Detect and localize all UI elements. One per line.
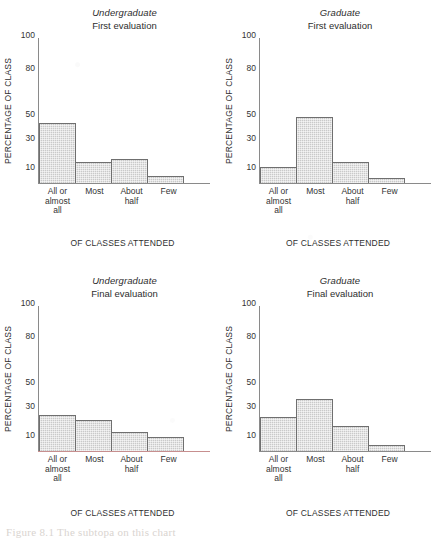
y-tick-label: 80 [247, 331, 259, 341]
bar [111, 432, 148, 451]
x-axis-category-label: Abouthalf [113, 455, 150, 484]
x-axis-line [38, 451, 210, 452]
plot-area: 10080503010All oralmostallMostAbouthalfF… [259, 306, 409, 452]
x-axis-category-line: Few [150, 187, 187, 197]
bar-series [260, 37, 405, 183]
chart-group-title: Graduate [249, 6, 431, 19]
bar [332, 162, 369, 183]
y-axis-label: PERCENTAGE OF CLASS [2, 306, 15, 452]
bar-series [260, 305, 405, 451]
x-axis-category-line: Most [297, 187, 334, 197]
x-axis-category-labels: All oralmostallMostAbouthalfFew [260, 187, 408, 216]
y-tick-label: 30 [26, 401, 38, 411]
y-tick-label: 50 [247, 109, 259, 119]
x-axis-category-label: Abouthalf [334, 455, 371, 484]
x-axis-category-line: Few [371, 187, 408, 197]
chart-panel-0: UndergraduateFirst evaluationPERCENTAGE … [0, 0, 215, 268]
x-axis-category-label: Most [76, 455, 113, 484]
y-tick-label: 50 [26, 377, 38, 387]
y-tick-label: 80 [26, 63, 38, 73]
y-tick-label: 10 [247, 430, 259, 440]
chart-panel-1: GraduateFirst evaluationPERCENTAGE OF CL… [215, 0, 431, 268]
y-tick-label: 100 [21, 298, 38, 308]
x-axis-title: OF CLASSES ATTENDED [34, 238, 211, 248]
x-axis-category-line: half [113, 465, 150, 475]
y-tick-label: 10 [26, 430, 38, 440]
bar-series [39, 37, 184, 183]
bar [75, 162, 112, 183]
figure-panel-grid: UndergraduateFirst evaluationPERCENTAGE … [0, 0, 431, 539]
x-axis-category-line: all [260, 206, 297, 216]
y-tick-label: 10 [247, 162, 259, 172]
bar [111, 159, 148, 183]
x-axis-category-line: half [113, 197, 150, 207]
x-axis-category-line: Most [76, 187, 113, 197]
bar [39, 415, 76, 452]
plot-area: 10080503010All oralmostallMostAbouthalfF… [38, 38, 188, 184]
bar [296, 399, 333, 451]
y-tick-label: 30 [247, 133, 259, 143]
x-axis-category-label: Most [297, 455, 334, 484]
x-axis-category-label: All oralmostall [260, 455, 297, 484]
y-tick-label: 100 [21, 30, 38, 40]
y-tick-label: 100 [242, 30, 259, 40]
x-axis-category-line: half [334, 465, 371, 475]
x-axis-category-label: Few [371, 455, 408, 484]
chart-group-title: Undergraduate [34, 6, 215, 19]
y-tick-label: 80 [26, 331, 38, 341]
x-axis-category-label: Few [150, 187, 187, 216]
bar [39, 123, 76, 183]
chart-evaluation-title: Final evaluation [34, 287, 215, 301]
y-tick-label: 80 [247, 63, 259, 73]
bar [260, 167, 297, 183]
x-axis-category-label: Abouthalf [334, 187, 371, 216]
x-axis-category-line: Most [297, 455, 334, 465]
y-tick-label: 50 [247, 377, 259, 387]
bar-series [39, 305, 184, 451]
x-axis-category-label: Most [76, 187, 113, 216]
x-axis-category-line: all [39, 206, 76, 216]
chart-group-title: Undergraduate [34, 274, 215, 287]
bar [368, 178, 405, 183]
x-axis-category-label: Few [371, 187, 408, 216]
y-tick-label: 30 [26, 133, 38, 143]
chart-group-title: Graduate [249, 274, 431, 287]
figure-caption: Figure 8.1 The subtopa on this chart [6, 526, 176, 538]
x-axis-category-line: all [39, 474, 76, 484]
bar [147, 176, 184, 183]
y-axis-label: PERCENTAGE OF CLASS [2, 38, 15, 184]
y-tick-label: 10 [26, 162, 38, 172]
bar [296, 117, 333, 183]
x-axis-category-line: Few [371, 455, 408, 465]
y-axis-label-text: PERCENTAGE OF CLASS [4, 326, 14, 432]
x-axis-line [259, 183, 431, 184]
x-axis-category-labels: All oralmostallMostAbouthalfFew [39, 455, 187, 484]
y-tick-label: 50 [26, 109, 38, 119]
bar [75, 420, 112, 451]
chart-panel-3: GraduateFinal evaluationPERCENTAGE OF CL… [215, 268, 431, 539]
x-axis-category-label: All oralmostall [39, 187, 76, 216]
chart-evaluation-title: First evaluation [249, 19, 431, 33]
x-axis-category-label: All oralmostall [260, 187, 297, 216]
x-axis-line [38, 183, 210, 184]
x-axis-category-label: Most [297, 187, 334, 216]
x-axis-category-line: half [334, 197, 371, 207]
y-axis-label: PERCENTAGE OF CLASS [223, 38, 236, 184]
y-axis-label-text: PERCENTAGE OF CLASS [225, 326, 235, 432]
y-tick-label: 100 [242, 298, 259, 308]
x-axis-category-label: Abouthalf [113, 187, 150, 216]
y-axis-label-text: PERCENTAGE OF CLASS [4, 58, 14, 164]
x-axis-category-label: Few [150, 455, 187, 484]
bar [368, 445, 405, 451]
y-tick-label: 30 [247, 401, 259, 411]
x-axis-category-line: Most [76, 455, 113, 465]
plot-area: 10080503010All oralmostallMostAbouthalfF… [259, 38, 409, 184]
x-axis-category-label: All oralmostall [39, 455, 76, 484]
x-axis-title: OF CLASSES ATTENDED [249, 238, 427, 248]
chart-panel-2: UndergraduateFinal evaluationPERCENTAGE … [0, 268, 215, 539]
chart-evaluation-title: Final evaluation [249, 287, 431, 301]
bar [147, 437, 184, 451]
x-axis-category-line: all [260, 474, 297, 484]
x-axis-category-labels: All oralmostallMostAbouthalfFew [39, 187, 187, 216]
x-axis-title: OF CLASSES ATTENDED [34, 508, 211, 518]
